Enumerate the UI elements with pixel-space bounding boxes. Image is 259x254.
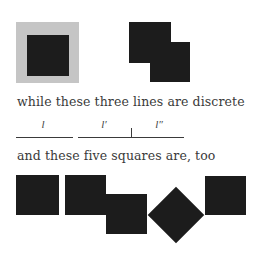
square-1 <box>16 175 59 215</box>
square-2 <box>65 175 106 215</box>
line-label-l: l <box>41 118 44 130</box>
square-3-lowered <box>106 194 147 234</box>
caption-five-squares: and these five squares are, too <box>17 148 215 163</box>
line-divider-tick <box>131 128 132 138</box>
caption-discrete-lines: while these three lines are discrete <box>17 94 245 109</box>
inner-black-square <box>27 35 69 76</box>
square-4-diamond <box>148 187 205 244</box>
square-5 <box>205 176 246 215</box>
line-label-l-prime: l′ <box>101 118 106 130</box>
line-l <box>16 137 73 138</box>
line-label-l-double-prime: l″ <box>155 118 163 130</box>
overlap-square-b <box>150 42 190 82</box>
